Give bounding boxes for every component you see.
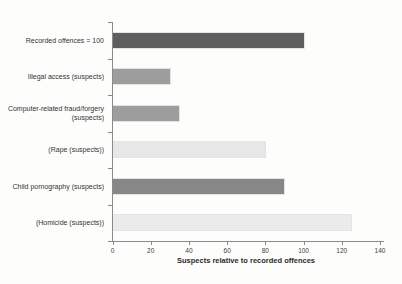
x-tick-label: 120 bbox=[330, 247, 354, 254]
x-axis-title: Suspects relative to recorded offences bbox=[112, 256, 380, 265]
y-axis-line bbox=[112, 22, 113, 242]
category-label: (Rape (suspects)) bbox=[2, 132, 108, 169]
x-tick-label: 0 bbox=[101, 247, 125, 254]
x-tick-label: 40 bbox=[177, 247, 201, 254]
bar-chart: Recorded offences = 100Illegal access (s… bbox=[0, 0, 402, 284]
category-label: Recorded offences = 100 bbox=[2, 22, 108, 59]
bar bbox=[113, 179, 285, 194]
x-tick-label: 100 bbox=[292, 247, 316, 254]
category-label: (Homicide (suspects)) bbox=[2, 205, 108, 242]
x-tick-label: 140 bbox=[368, 247, 392, 254]
bar bbox=[113, 106, 180, 121]
bar bbox=[113, 69, 170, 84]
category-label: Illegal access (suspects) bbox=[2, 59, 108, 96]
x-tick-label: 80 bbox=[253, 247, 277, 254]
bar bbox=[113, 215, 352, 230]
bar bbox=[113, 33, 304, 48]
bar bbox=[113, 142, 266, 157]
x-tick-label: 60 bbox=[215, 247, 239, 254]
category-label: Child pornography (suspects) bbox=[2, 168, 108, 205]
x-tick-label: 20 bbox=[139, 247, 163, 254]
x-axis-line bbox=[108, 241, 384, 242]
category-label: Computer-related fraud/forgery (suspects… bbox=[2, 95, 108, 132]
